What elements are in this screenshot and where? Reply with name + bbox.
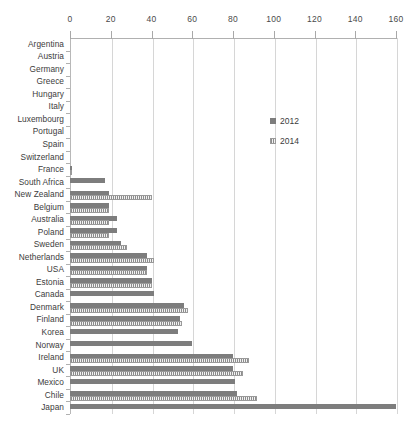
category-label: Poland bbox=[0, 227, 64, 237]
chart-row: Luxembourg bbox=[0, 113, 404, 126]
bar-2014 bbox=[70, 270, 147, 275]
chart-row: Mexico bbox=[0, 376, 404, 389]
category-label: Germany bbox=[0, 64, 64, 74]
bar-2012 bbox=[70, 404, 396, 409]
chart-row: Spain bbox=[0, 138, 404, 151]
category-label: Sweden bbox=[0, 239, 64, 249]
category-label: Portugal bbox=[0, 126, 64, 136]
chart-row: Australia bbox=[0, 213, 404, 226]
category-label: Japan bbox=[0, 402, 64, 412]
category-label: Finland bbox=[0, 314, 64, 324]
bar-2012 bbox=[70, 341, 192, 346]
bar-2014 bbox=[70, 208, 109, 213]
bar-2014 bbox=[70, 308, 188, 313]
chart-row: Korea bbox=[0, 326, 404, 339]
chart-row: France bbox=[0, 163, 404, 176]
category-label: Hungary bbox=[0, 89, 64, 99]
bar-2012 bbox=[70, 329, 178, 334]
x-tick-label: 100 bbox=[266, 14, 281, 24]
bar-2014 bbox=[70, 258, 154, 263]
category-label: Chile bbox=[0, 390, 64, 400]
category-label: Italy bbox=[0, 101, 64, 111]
x-tick-label: 80 bbox=[228, 14, 238, 24]
chart-row: Finland bbox=[0, 314, 404, 327]
category-label: Canada bbox=[0, 289, 64, 299]
category-label: Estonia bbox=[0, 277, 64, 287]
chart-row: Netherlands bbox=[0, 251, 404, 264]
bar-2014 bbox=[70, 358, 249, 363]
bar-2014 bbox=[70, 396, 257, 401]
category-label: Greece bbox=[0, 76, 64, 86]
x-tick-label: 60 bbox=[187, 14, 197, 24]
chart-row: Poland bbox=[0, 226, 404, 239]
legend-entry-2012: 2012 bbox=[270, 116, 299, 126]
chart-row: Germany bbox=[0, 63, 404, 76]
chart-row: USA bbox=[0, 264, 404, 277]
category-label: Netherlands bbox=[0, 252, 64, 262]
category-label: South Africa bbox=[0, 177, 64, 187]
chart-row: Ireland bbox=[0, 351, 404, 364]
category-label: Belgium bbox=[0, 202, 64, 212]
chart-row: Norway bbox=[0, 339, 404, 352]
category-label: France bbox=[0, 164, 64, 174]
x-tick-label: 140 bbox=[348, 14, 363, 24]
bar-2012 bbox=[70, 291, 154, 296]
chart-row: Greece bbox=[0, 76, 404, 89]
chart-row: Estonia bbox=[0, 276, 404, 289]
chart-row: Belgium bbox=[0, 201, 404, 214]
chart-row: Canada bbox=[0, 289, 404, 302]
chart-row: South Africa bbox=[0, 176, 404, 189]
y-tick-mark bbox=[66, 414, 70, 415]
x-tick-label: 40 bbox=[147, 14, 157, 24]
bar-2014 bbox=[70, 245, 127, 250]
category-label: Spain bbox=[0, 139, 64, 149]
bar-2014 bbox=[70, 170, 72, 175]
chart-row: Austria bbox=[0, 51, 404, 64]
category-label: Argentina bbox=[0, 39, 64, 49]
chart-row: Italy bbox=[0, 101, 404, 114]
bar-chart: 020406080100120140160 ArgentinaAustriaGe… bbox=[0, 0, 404, 426]
x-tick-label: 120 bbox=[307, 14, 322, 24]
x-tick-label: 20 bbox=[106, 14, 116, 24]
bar-2014 bbox=[70, 321, 182, 326]
category-label: New Zealand bbox=[0, 189, 64, 199]
category-label: UK bbox=[0, 365, 64, 375]
bar-2012 bbox=[70, 178, 105, 183]
chart-row: Switzerland bbox=[0, 151, 404, 164]
bar-2012 bbox=[70, 379, 235, 384]
legend-swatch-2014-icon bbox=[270, 138, 276, 144]
chart-row: New Zealand bbox=[0, 188, 404, 201]
x-tick-label: 0 bbox=[68, 14, 73, 24]
chart-row: Portugal bbox=[0, 126, 404, 139]
chart-row: Hungary bbox=[0, 88, 404, 101]
bar-2014 bbox=[70, 283, 152, 288]
chart-row: Chile bbox=[0, 389, 404, 402]
chart-row: Denmark bbox=[0, 301, 404, 314]
category-label: USA bbox=[0, 264, 64, 274]
category-label: Korea bbox=[0, 327, 64, 337]
legend-entry-2014: 2014 bbox=[270, 136, 299, 146]
category-label: Norway bbox=[0, 340, 64, 350]
legend-label-2014: 2014 bbox=[280, 136, 299, 146]
bar-2014 bbox=[70, 371, 243, 376]
category-label: Ireland bbox=[0, 352, 64, 362]
chart-row: Sweden bbox=[0, 239, 404, 252]
category-label: Mexico bbox=[0, 377, 64, 387]
x-tick-label: 160 bbox=[389, 14, 404, 24]
bar-2014 bbox=[70, 195, 152, 200]
category-label: Australia bbox=[0, 214, 64, 224]
bar-2014 bbox=[70, 233, 109, 238]
category-label: Austria bbox=[0, 51, 64, 61]
chart-row: Japan bbox=[0, 401, 404, 414]
category-label: Denmark bbox=[0, 302, 64, 312]
category-label: Luxembourg bbox=[0, 114, 64, 124]
bar-2014 bbox=[70, 220, 109, 225]
legend-label-2012: 2012 bbox=[280, 116, 299, 126]
chart-legend: 2012 2014 bbox=[266, 110, 324, 154]
legend-swatch-2012-icon bbox=[270, 118, 276, 124]
chart-row: Argentina bbox=[0, 38, 404, 51]
chart-row: UK bbox=[0, 364, 404, 377]
category-label: Switzerland bbox=[0, 152, 64, 162]
